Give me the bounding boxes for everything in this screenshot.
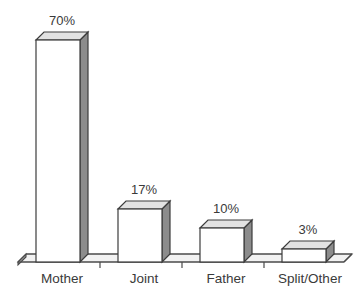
bar-mother-side <box>80 32 88 262</box>
bar-joint <box>118 201 170 262</box>
bar-joint-front <box>118 209 162 262</box>
category-label-split-other: Split/Other <box>278 271 342 286</box>
bar-father-front <box>200 228 244 262</box>
bar-split-other-value-label: 3% <box>299 222 318 237</box>
bar-joint-side <box>162 201 170 262</box>
bar-joint-top <box>118 201 170 209</box>
bar-split-other-front <box>282 249 326 262</box>
bar-mother <box>36 32 88 262</box>
category-label-mother: Mother <box>41 271 84 286</box>
bar-father <box>200 220 252 262</box>
bar-chart: 70% 17% 10% 3% Mother Joint Father Split… <box>0 0 362 292</box>
bar-father-top <box>200 220 252 228</box>
category-label-father: Father <box>206 271 246 286</box>
bar-father-value-label: 10% <box>213 201 239 216</box>
category-label-joint: Joint <box>130 271 159 286</box>
bar-mother-value-label: 70% <box>49 13 75 28</box>
bar-joint-value-label: 17% <box>131 182 157 197</box>
bar-split-other-top <box>282 241 334 249</box>
chart-canvas: 70% 17% 10% 3% Mother Joint Father Split… <box>0 0 362 292</box>
bar-split-other <box>282 241 334 262</box>
bar-mother-top <box>36 32 88 40</box>
bar-mother-front <box>36 40 80 262</box>
